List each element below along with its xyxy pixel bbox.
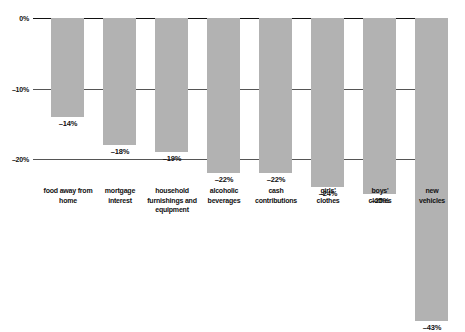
bar[interactable] (103, 18, 136, 145)
bar-value-label: –22% (198, 175, 250, 184)
category-label-line: alcoholic (196, 186, 252, 196)
bar-value-label: –22% (250, 175, 302, 184)
category-label-line: mortgage (92, 186, 148, 196)
category-label-line: home (40, 196, 96, 206)
category-label-line: clothes (300, 196, 356, 206)
bar-value-label: –19% (146, 154, 198, 163)
bar-value-label: –18% (94, 147, 146, 156)
category-label-line: cash (248, 186, 304, 196)
category-label-line: clothes (352, 196, 408, 206)
bar-slot: –14% (42, 18, 94, 177)
bar[interactable] (363, 18, 396, 194)
bar[interactable] (51, 18, 84, 117)
category-label: alcoholicbeverages (196, 186, 252, 205)
bar-slot: –22% (198, 18, 250, 177)
category-label: mortgageinterest (92, 186, 148, 205)
category-label-line: girls' (300, 186, 356, 196)
bar-slot: –18% (94, 18, 146, 177)
ytick-label-1: –10% (12, 86, 29, 93)
bar-slot: –24% (302, 18, 354, 177)
bar[interactable] (415, 18, 448, 321)
bar-slot: –22% (250, 18, 302, 177)
category-label-line: beverages (196, 196, 252, 206)
category-label-line: vehicles (404, 196, 460, 206)
category-label-line: furnishings and (144, 196, 200, 206)
category-label-line: boys' (352, 186, 408, 196)
category-label-line: equipment (144, 205, 200, 215)
category-label: girls'clothes (300, 186, 356, 205)
bar[interactable] (311, 18, 344, 187)
bar-value-label: –43% (406, 323, 458, 332)
category-label-line: food away from (40, 186, 96, 196)
bar-value-label: –14% (42, 119, 94, 128)
category-label: newvehicles (404, 186, 460, 205)
category-labels: food away fromhomemortgageinteresthouseh… (33, 186, 447, 238)
category-label: householdfurnishings andequipment (144, 186, 200, 215)
category-label-line: new (404, 186, 460, 196)
category-label: cashcontributions (248, 186, 304, 205)
bar[interactable] (259, 18, 292, 173)
bar[interactable] (207, 18, 240, 173)
ytick-label-0: 0% (19, 15, 29, 22)
bar-slot: –43% (406, 18, 458, 177)
bars-layer: –14%–18%–19%–22%–22%–24%–25%–43% (33, 18, 447, 177)
bar[interactable] (155, 18, 188, 152)
bar-slot: –25% (354, 18, 406, 177)
category-label-line: interest (92, 196, 148, 206)
category-label-line: household (144, 186, 200, 196)
category-label: food away fromhome (40, 186, 96, 205)
bar-slot: –19% (146, 18, 198, 177)
category-label: boys'clothes (352, 186, 408, 205)
category-label-line: contributions (248, 196, 304, 206)
ytick-label-2: –20% (12, 156, 29, 163)
